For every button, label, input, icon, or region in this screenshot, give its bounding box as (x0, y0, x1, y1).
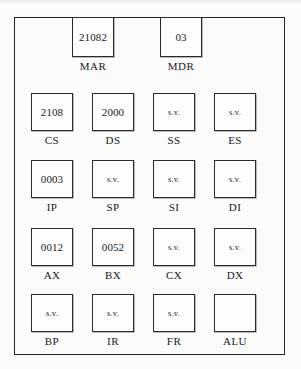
register-label-ss: SS (153, 135, 195, 146)
register-value-es: s.v. (229, 108, 241, 117)
register-value-ip: 0003 (41, 174, 63, 185)
register-cell-cx: s.v.CX (153, 228, 195, 281)
register-value-si: s.v. (168, 175, 180, 184)
scan-artifact-band (0, 0, 301, 5)
register-box-dx[interactable]: s.v. (214, 228, 256, 266)
register-label-mar: MAR (72, 61, 114, 72)
register-cell-ds: 2000DS (92, 93, 134, 146)
register-label-es: ES (214, 135, 256, 146)
register-cell-ip: 0003IP (31, 160, 73, 213)
register-cell-es: s.v.ES (214, 93, 256, 146)
register-box-ss[interactable]: s.v. (153, 93, 195, 131)
register-box-cs[interactable]: 2108 (31, 93, 73, 131)
register-box-bx[interactable]: 0052 (92, 228, 134, 266)
register-value-mar: 21082 (79, 32, 107, 43)
register-cell-mar: 21082MAR (72, 17, 114, 72)
register-cell-cs: 2108CS (31, 93, 73, 146)
register-box-ds[interactable]: 2000 (92, 93, 134, 131)
register-value-cx: s.v. (168, 243, 180, 252)
register-label-ds: DS (92, 135, 134, 146)
register-value-di: s.v. (229, 175, 241, 184)
register-label-si: SI (153, 202, 195, 213)
register-label-dx: DX (214, 270, 256, 281)
register-box-es[interactable]: s.v. (214, 93, 256, 131)
register-box-alu[interactable] (214, 294, 256, 332)
register-value-ss: s.v. (168, 108, 180, 117)
register-box-ip[interactable]: 0003 (31, 160, 73, 198)
register-label-di: DI (214, 202, 256, 213)
register-value-ds: 2000 (102, 107, 124, 118)
register-label-fr: FR (153, 336, 195, 347)
register-value-bx: 0052 (102, 242, 124, 253)
register-cell-dx: s.v.DX (214, 228, 256, 281)
register-cell-alu: ALU (214, 294, 256, 347)
register-cell-mdr: 03MDR (160, 17, 202, 72)
register-box-di[interactable]: s.v. (214, 160, 256, 198)
register-value-cs: 2108 (41, 107, 63, 118)
register-label-cx: CX (153, 270, 195, 281)
register-value-ax: 0012 (41, 242, 63, 253)
register-cell-fr: s.v.FR (153, 294, 195, 347)
register-cell-si: s.v.SI (153, 160, 195, 213)
register-box-ir[interactable]: s.v. (92, 294, 134, 332)
register-label-sp: SP (92, 202, 134, 213)
register-box-cx[interactable]: s.v. (153, 228, 195, 266)
register-box-mdr[interactable]: 03 (160, 17, 202, 57)
register-value-sp: s.v. (107, 175, 119, 184)
register-value-fr: s.v. (168, 309, 180, 318)
register-cell-ax: 0012AX (31, 228, 73, 281)
register-label-ir: IR (92, 336, 134, 347)
register-box-mar[interactable]: 21082 (72, 17, 114, 57)
register-cell-bp: s.v.BP (31, 294, 73, 347)
register-value-dx: s.v. (229, 243, 241, 252)
register-cell-bx: 0052BX (92, 228, 134, 281)
register-label-alu: ALU (214, 336, 256, 347)
register-box-ax[interactable]: 0012 (31, 228, 73, 266)
register-label-ip: IP (31, 202, 73, 213)
register-label-mdr: MDR (160, 61, 202, 72)
register-box-si[interactable]: s.v. (153, 160, 195, 198)
register-label-cs: CS (31, 135, 73, 146)
register-label-bp: BP (31, 336, 73, 347)
register-cell-di: s.v.DI (214, 160, 256, 213)
register-value-mdr: 03 (175, 32, 186, 43)
register-box-bp[interactable]: s.v. (31, 294, 73, 332)
register-cell-sp: s.v.SP (92, 160, 134, 213)
register-cell-ss: s.v.SS (153, 93, 195, 146)
register-box-sp[interactable]: s.v. (92, 160, 134, 198)
register-value-bp: s.v. (46, 309, 58, 318)
register-box-fr[interactable]: s.v. (153, 294, 195, 332)
register-label-ax: AX (31, 270, 73, 281)
register-label-bx: BX (92, 270, 134, 281)
register-cell-ir: s.v.IR (92, 294, 134, 347)
diagram-page: 21082MAR03MDR2108CS2000DSs.v.SSs.v.ES000… (0, 0, 301, 369)
register-value-ir: s.v. (107, 309, 119, 318)
